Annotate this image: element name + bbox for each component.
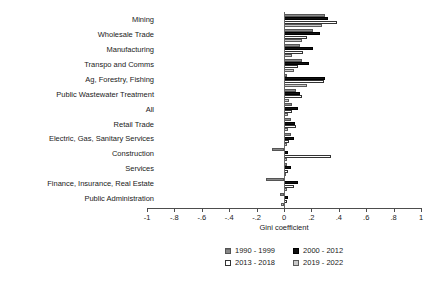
legend-label-3: 2019 - 2022: [303, 258, 343, 267]
x-tick-9: [394, 208, 395, 212]
series-0-swatch: [225, 248, 231, 254]
x-tick-label-4: -.2: [252, 213, 261, 222]
x-tick-label-1: -.8: [170, 213, 179, 222]
category-label-3: Transpo and Comms: [84, 61, 154, 69]
legend-item-0: 1990 - 1999: [225, 246, 275, 255]
x-tick-label-5: 0: [282, 213, 286, 222]
bar-c1-s3: [284, 39, 302, 42]
legend-item-1: 2000 - 2012: [293, 246, 343, 255]
x-tick-2: [202, 208, 203, 212]
bar-c11-s0: [266, 178, 284, 181]
x-tick-5: [284, 208, 285, 212]
x-axis-line: [148, 208, 422, 209]
category-label-12: Public Administration: [84, 195, 154, 203]
gini-coefficient-bar-chart: MiningWholesale TradeManufacturingTransp…: [0, 0, 446, 283]
legend-label-0: 1990 - 1999: [235, 246, 275, 255]
bar-c9-s0: [272, 148, 284, 151]
bar-c3-s3: [284, 69, 294, 72]
x-tick-8: [366, 208, 367, 212]
x-tick-4: [257, 208, 258, 212]
category-label-5: Public Wastewater Treatment: [56, 91, 154, 99]
legend-item-3: 2019 - 2022: [293, 258, 343, 267]
category-label-4: Ag, Forestry, Fishing: [85, 76, 154, 84]
x-tick-label-2: -.6: [197, 213, 206, 222]
category-label-8: Electric, Gas, Sanitary Services: [49, 135, 154, 143]
plot-area: [148, 12, 422, 208]
series-1-swatch: [293, 248, 299, 254]
bar-c9-s2: [284, 155, 331, 158]
x-tick-6: [311, 208, 312, 212]
x-tick-label-10: 1: [419, 213, 423, 222]
x-tick-0: [147, 208, 148, 212]
x-tick-label-3: -.4: [225, 213, 234, 222]
x-axis-title: Gini coefficient: [259, 223, 308, 232]
x-tick-10: [421, 208, 422, 212]
x-tick-7: [339, 208, 340, 212]
x-tick-label-6: .2: [308, 213, 314, 222]
bar-c2-s3: [284, 54, 292, 57]
bar-c4-s3: [284, 84, 307, 87]
zero-reference-line: [284, 12, 285, 208]
category-label-1: Wholesale Trade: [98, 31, 154, 39]
category-label-2: Manufacturing: [106, 46, 154, 54]
x-tick-label-0: -1: [144, 213, 151, 222]
series-3-swatch: [293, 260, 299, 266]
x-tick-1: [174, 208, 175, 212]
category-label-11: Finance, Insurance, Real Estate: [47, 180, 154, 188]
bar-c0-s3: [284, 24, 322, 27]
x-tick-label-9: .8: [390, 213, 396, 222]
series-2-swatch: [225, 260, 231, 266]
x-tick-label-8: .6: [363, 213, 369, 222]
x-tick-label-7: .4: [336, 213, 342, 222]
x-tick-3: [229, 208, 230, 212]
legend: 1990 - 1999 2000 - 2012 2013 - 2018 2019…: [225, 246, 343, 267]
legend-item-2: 2013 - 2018: [225, 258, 275, 267]
legend-label-2: 2013 - 2018: [235, 258, 275, 267]
legend-label-1: 2000 - 2012: [303, 246, 343, 255]
